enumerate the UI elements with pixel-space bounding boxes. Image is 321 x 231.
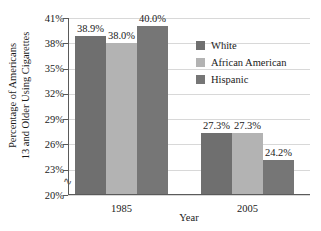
bar-value-label: 40.0% bbox=[131, 13, 174, 24]
y-axis-tick-label: 35% bbox=[36, 63, 64, 74]
legend-item-label: Hispanic bbox=[211, 74, 248, 85]
legend-item: White bbox=[196, 38, 316, 53]
y-axis-tick bbox=[63, 69, 68, 70]
y-axis-tick-label: 32% bbox=[36, 88, 64, 99]
legend-item: Hispanic bbox=[196, 72, 316, 87]
y-axis-tick bbox=[63, 94, 68, 95]
bar bbox=[106, 43, 137, 195]
gridline bbox=[68, 195, 310, 196]
y-axis-tick bbox=[63, 18, 68, 19]
y-axis-tick-label: 38% bbox=[36, 38, 64, 49]
bar bbox=[75, 36, 106, 195]
bar bbox=[201, 133, 232, 195]
legend-item-label: White bbox=[211, 40, 237, 51]
y-axis-tick-label: 41% bbox=[36, 13, 64, 24]
bar bbox=[263, 160, 294, 195]
y-axis-tick bbox=[63, 144, 68, 145]
bar bbox=[137, 26, 168, 195]
legend: WhiteAfrican AmericanHispanic bbox=[196, 38, 316, 89]
axis-break-icon: ∿ bbox=[63, 176, 71, 187]
y-axis-tick-label: 26% bbox=[36, 139, 64, 150]
x-axis-title: Year bbox=[68, 212, 310, 223]
bar-chart: Percentage of Americans 13 and Older Usi… bbox=[0, 0, 321, 231]
legend-swatch-icon bbox=[196, 58, 205, 67]
y-axis-title-line-1: Percentage of Americans bbox=[8, 31, 21, 159]
y-axis-tick bbox=[63, 195, 68, 196]
y-axis-tick-label: 20% bbox=[36, 190, 64, 201]
legend-swatch-icon bbox=[196, 41, 205, 50]
y-axis-tick-labels: 41%38%35%32%29%26%23%20% bbox=[30, 0, 64, 231]
legend-swatch-icon bbox=[196, 75, 205, 84]
legend-item-label: African American bbox=[211, 57, 287, 68]
y-axis-line bbox=[68, 18, 69, 195]
gridline bbox=[68, 18, 310, 19]
bar-value-label: 24.2% bbox=[257, 147, 300, 158]
bar bbox=[232, 133, 263, 195]
y-axis-tick bbox=[63, 119, 68, 120]
y-axis-tick-label: 29% bbox=[36, 114, 64, 125]
bar-value-label: 27.3% bbox=[226, 120, 269, 131]
x-axis-line bbox=[68, 194, 310, 195]
y-axis-tick-label: 23% bbox=[36, 164, 64, 175]
y-axis-tick bbox=[63, 170, 68, 171]
y-axis-tick bbox=[63, 43, 68, 44]
legend-item: African American bbox=[196, 55, 316, 70]
